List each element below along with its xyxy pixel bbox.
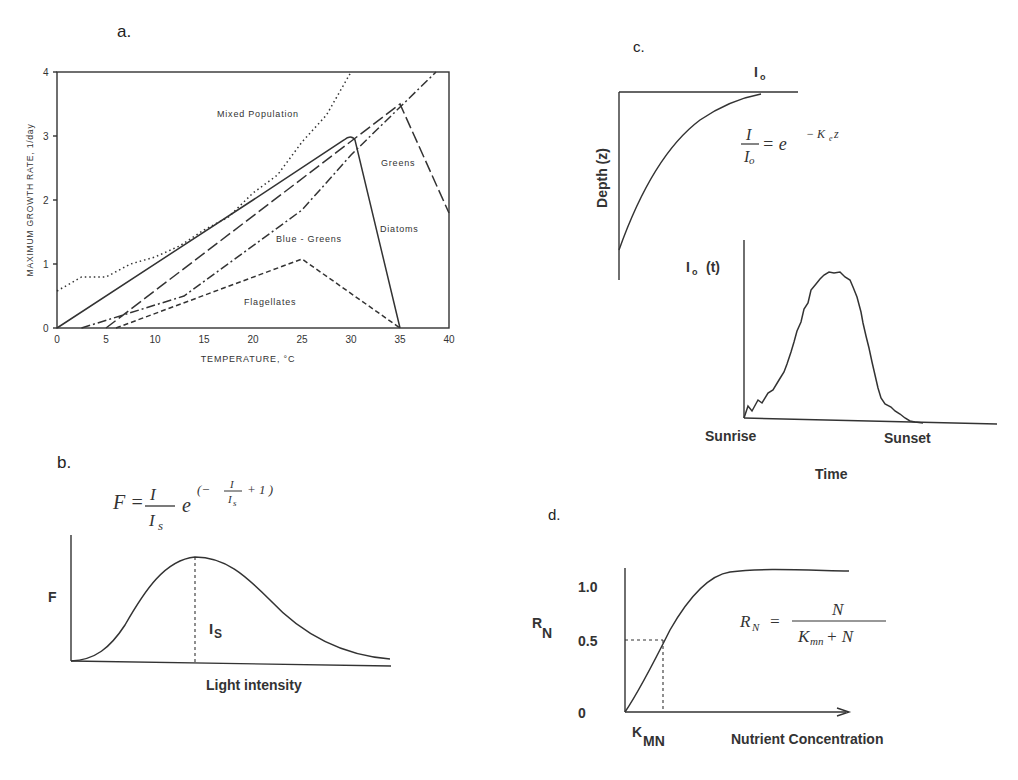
panel-a-xticks: 0 5 10 15 20 25 30 35 40 xyxy=(54,334,455,345)
svg-text:I: I xyxy=(148,511,156,530)
panel-d: d. 1.0 0.5 0 R N K MN Nutrient Concentra… xyxy=(532,506,886,749)
sunset-label: Sunset xyxy=(884,430,931,446)
svg-text:z: z xyxy=(833,127,839,141)
xtick-5: 5 xyxy=(103,334,109,345)
svg-text:(−: (− xyxy=(197,482,210,497)
ytick-0: 0 xyxy=(578,705,586,721)
ytick-2: 2 xyxy=(43,195,49,206)
svg-text:o: o xyxy=(692,267,698,277)
svg-text:s: s xyxy=(233,498,237,508)
svg-text:mn: mn xyxy=(810,635,824,647)
svg-text:(t): (t) xyxy=(706,259,720,275)
panel-a-label: a. xyxy=(117,22,131,41)
xtick-40: 40 xyxy=(443,334,455,345)
label-diatoms: Diatoms xyxy=(380,224,419,234)
label-blue-greens: Blue - Greens xyxy=(276,234,342,244)
xtick-10: 10 xyxy=(149,334,161,345)
ytick-0: 0 xyxy=(43,323,49,334)
time-label: Time xyxy=(815,466,848,482)
panel-b-label: b. xyxy=(57,453,71,472)
svg-text:N: N xyxy=(831,600,845,619)
surface-light-label: I xyxy=(754,64,758,80)
panel-b-xlabel: Light intensity xyxy=(206,677,302,693)
ytick-0-5: 0.5 xyxy=(578,633,598,649)
xtick-25: 25 xyxy=(296,334,308,345)
light-response-curve xyxy=(71,557,390,661)
svg-text:N: N xyxy=(751,621,760,633)
svg-text:o: o xyxy=(760,72,766,82)
svg-text:o: o xyxy=(749,154,755,166)
panel-c-formula: I I o = e − K e z xyxy=(741,126,839,166)
sunrise-label: Sunrise xyxy=(705,428,757,444)
xtick-30: 30 xyxy=(345,334,357,345)
svg-text:K: K xyxy=(797,627,811,646)
panel-a-yticks: 0 1 2 3 4 xyxy=(43,67,57,334)
is-label: I xyxy=(209,620,213,637)
svg-text:− K: − K xyxy=(806,127,826,141)
panel-b-x-axis xyxy=(71,661,391,666)
svg-text:+ N: + N xyxy=(826,627,855,646)
panel-b-formula: F = I I s e (− I I s + 1 ) xyxy=(112,478,273,533)
mixed-population-curve xyxy=(57,72,351,291)
label-mixed-population: Mixed Population xyxy=(217,109,299,119)
svg-text:e: e xyxy=(829,134,833,143)
xtick-0: 0 xyxy=(54,334,60,345)
svg-text:+ 1 ): + 1 ) xyxy=(247,482,273,497)
time-plot-ylabel: I xyxy=(686,259,690,275)
svg-text:R: R xyxy=(739,612,751,631)
kmn-label: K xyxy=(632,724,642,740)
panel-a-xlabel: TEMPERATURE, °C xyxy=(201,354,295,364)
svg-text:F =: F = xyxy=(112,491,144,513)
svg-text:N: N xyxy=(542,625,552,641)
light-attenuation-curve xyxy=(619,94,761,250)
daily-light-curve xyxy=(744,272,923,423)
panel-d-xlabel: Nutrient Concentration xyxy=(731,731,883,747)
time-plot-x-axis xyxy=(744,418,997,424)
is-sub: S xyxy=(214,627,222,641)
flagellates-curve xyxy=(116,259,400,328)
svg-text:MN: MN xyxy=(643,733,665,749)
ytick-4: 4 xyxy=(43,67,49,78)
xtick-15: 15 xyxy=(198,334,210,345)
xtick-20: 20 xyxy=(247,334,259,345)
panel-c-label: c. xyxy=(633,38,645,55)
depth-label: Depth (z) xyxy=(594,148,610,208)
panel-d-formula: R N = N K mn + N xyxy=(739,600,886,647)
diatoms-curve xyxy=(57,137,400,328)
label-greens: Greens xyxy=(381,158,415,168)
panel-b: b. F = I I s e (− I I s + 1 ) F I S Ligh… xyxy=(48,453,391,693)
svg-text:I: I xyxy=(229,478,235,490)
svg-text:= e: = e xyxy=(762,134,787,154)
figure: a. 0 1 2 3 4 0 5 10 15 20 25 30 35 40 TE… xyxy=(0,0,1018,780)
ytick-1-0: 1.0 xyxy=(578,579,598,595)
panel-d-ylabel: R xyxy=(532,615,542,631)
svg-text:I: I xyxy=(149,485,157,504)
svg-text:I: I xyxy=(745,126,752,143)
svg-text:=: = xyxy=(769,612,780,631)
svg-text:s: s xyxy=(158,518,163,533)
panel-d-label: d. xyxy=(548,506,561,523)
greens-curve xyxy=(106,104,449,328)
panel-b-ylabel: F xyxy=(48,589,57,605)
panel-a: a. 0 1 2 3 4 0 5 10 15 20 25 30 35 40 TE… xyxy=(25,22,455,364)
panel-a-ylabel: MAXIMUM GROWTH RATE, 1/day xyxy=(25,124,35,277)
xtick-35: 35 xyxy=(394,334,406,345)
panel-c: c. I o Depth (z) I I o = e − K e z I o (… xyxy=(594,38,997,482)
label-flagellates: Flagellates xyxy=(244,297,296,307)
ytick-1: 1 xyxy=(43,259,49,270)
svg-text:e: e xyxy=(182,494,191,516)
ytick-3: 3 xyxy=(43,131,49,142)
